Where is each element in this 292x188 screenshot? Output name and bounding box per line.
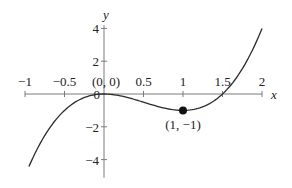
x-tick-label: 1 (180, 74, 187, 89)
x-tick-label: −1 (18, 74, 32, 89)
y-tick-label: 2 (93, 54, 100, 69)
x-tick-label: −0.5 (53, 74, 77, 89)
points: (1, −1) (165, 106, 201, 132)
y-axis-label: y (101, 7, 109, 22)
annotations: (0, 0) (92, 74, 120, 89)
x-axis-label: x (270, 87, 277, 102)
x-tick-label: 0.5 (135, 74, 151, 89)
x-tick-label: 2 (259, 74, 266, 89)
point-label: (1, −1) (165, 117, 201, 132)
axes: x y (25, 7, 277, 178)
y-tick-label: −2 (85, 120, 99, 135)
function-curve (29, 28, 262, 166)
origin-annotation: (0, 0) (92, 74, 120, 89)
y-tick-label: −4 (85, 153, 99, 168)
x-tick-label: 1.5 (214, 74, 230, 89)
chart: x y −1−0.50.511.52 420−2−4 (1, −1) (0, 0… (0, 0, 292, 188)
point-marker (179, 106, 187, 114)
y-tick-label: 4 (93, 21, 100, 36)
